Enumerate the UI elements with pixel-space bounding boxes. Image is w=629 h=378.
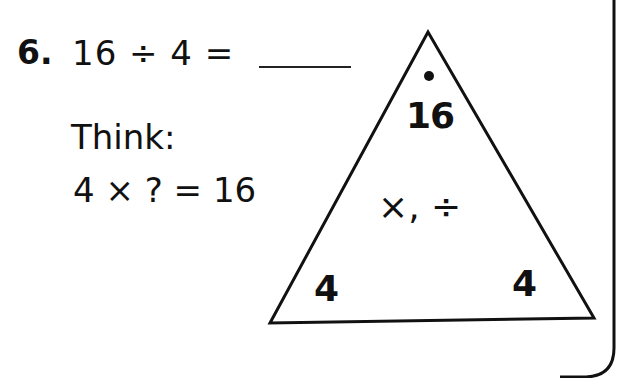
answer-blank[interactable] xyxy=(259,66,351,68)
triangle-operations: ×, ÷ xyxy=(378,186,461,227)
triangle-bottom-right-number: 4 xyxy=(512,263,537,304)
think-equation: 4 × ? = 16 xyxy=(73,170,256,210)
think-label: Think: xyxy=(71,117,175,157)
triangle-bottom-left-number: 4 xyxy=(314,268,339,309)
triangle-top-number: 16 xyxy=(406,95,454,136)
card-border xyxy=(560,0,614,377)
top-dot-marker xyxy=(424,71,434,81)
division-equation: 16 ÷ 4 = xyxy=(72,33,234,73)
problem-number: 6. xyxy=(17,33,53,72)
